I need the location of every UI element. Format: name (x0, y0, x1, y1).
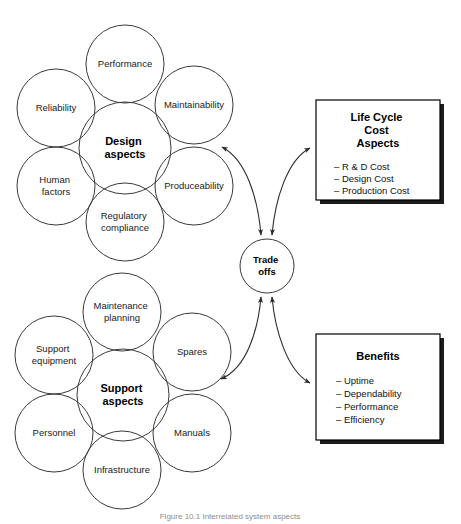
design-cluster: Performance Maintainability Produceabili… (17, 25, 233, 261)
label-spares: Spares (177, 346, 207, 357)
label-human-factors: Human factors (39, 174, 72, 197)
label-manuals: Manuals (174, 427, 210, 438)
label-design-aspects: Design aspects (105, 134, 146, 159)
connector-tradeoffs-to-lcc[interactable] (272, 148, 310, 235)
support-cluster: Maintenance planning Spares Manuals Infr… (15, 273, 231, 509)
label-produceability: Produceability (164, 180, 224, 191)
system-aspects-diagram: Performance Maintainability Produceabili… (0, 0, 461, 524)
panel-benefits[interactable]: Benefits – Uptime – Dependability – Perf… (316, 334, 444, 444)
benefits-panel-title: Benefits (356, 350, 399, 362)
connector-tradeoffs-to-benefits[interactable] (272, 297, 310, 383)
trade-offs-hub[interactable]: Trade offs (240, 239, 294, 293)
figure-caption: Figure 10.1 Interrelated system aspects (160, 512, 301, 521)
label-personnel: Personnel (33, 427, 76, 438)
panel-life-cycle-cost-aspects[interactable]: Life Cycle Cost Aspects – R & D Cost – D… (316, 100, 444, 204)
label-regulatory-compliance: Regulatory compliance (101, 210, 150, 233)
label-performance: Performance (98, 58, 152, 69)
label-support-aspects: Support aspects (100, 381, 145, 406)
label-support-equipment: Support equipment (32, 343, 77, 366)
label-reliability: Reliability (36, 102, 77, 113)
label-infrastructure: Infrastructure (94, 464, 150, 475)
label-maintainability: Maintainability (164, 99, 224, 110)
figure-container: Performance Maintainability Produceabili… (0, 0, 461, 524)
